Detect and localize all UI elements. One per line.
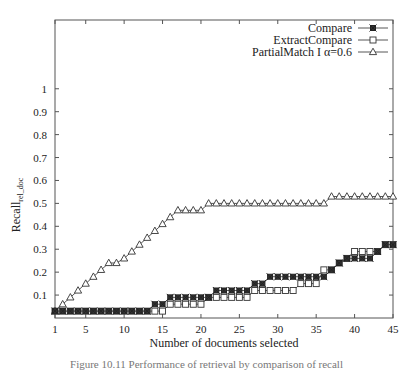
y-tick-label: 0.2 bbox=[33, 266, 47, 278]
x-tick-label: 35 bbox=[311, 323, 323, 335]
legend-label: PartialMatch I α=0.6 bbox=[252, 45, 352, 59]
x-tick-label: 15 bbox=[157, 323, 169, 335]
y-axis-title: Recallrel_doc bbox=[9, 177, 25, 232]
x-tick-label: 10 bbox=[119, 323, 131, 335]
y-tick-label: 0.4 bbox=[33, 220, 47, 232]
x-tick-label: 45 bbox=[388, 323, 400, 335]
x-tick-label: 5 bbox=[83, 323, 89, 335]
y-tick-label: 0.5 bbox=[33, 197, 47, 209]
figure-caption: Figure 10.11 Performance of retrieval by… bbox=[0, 358, 413, 370]
x-tick-label: 20 bbox=[195, 323, 207, 335]
x-tick-label: 1 bbox=[52, 323, 58, 335]
legend-marker-icon bbox=[369, 48, 376, 54]
legend-marker-icon bbox=[370, 37, 376, 43]
y-tick-label: 0.7 bbox=[33, 152, 47, 164]
y-axis-title-subscript: rel_doc bbox=[16, 177, 25, 201]
y-tick-label: 1 bbox=[42, 83, 48, 95]
x-tick-label: 40 bbox=[349, 323, 361, 335]
x-axis-title: Number of documents selected bbox=[150, 336, 299, 350]
y-axis-title-main: Recall bbox=[9, 201, 23, 232]
series-compare bbox=[52, 241, 397, 314]
y-tick-label: 0.1 bbox=[33, 289, 47, 301]
legend: CompareExtractComparePartialMatch I α=0.… bbox=[252, 21, 388, 59]
x-tick-label: 25 bbox=[234, 323, 246, 335]
y-tick-label: 0.6 bbox=[33, 174, 47, 186]
legend-marker-icon bbox=[370, 25, 377, 32]
plot-border bbox=[55, 20, 393, 318]
plot-frame bbox=[55, 20, 393, 318]
data-series bbox=[51, 193, 396, 315]
y-tick-label: 0.8 bbox=[33, 129, 47, 141]
series-extractcompare bbox=[52, 242, 396, 314]
x-tick-label: 30 bbox=[272, 323, 284, 335]
y-tick-label: 0.9 bbox=[33, 106, 47, 118]
y-tick-label: 0.3 bbox=[33, 243, 47, 255]
